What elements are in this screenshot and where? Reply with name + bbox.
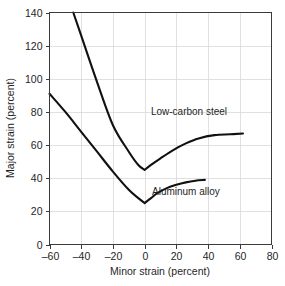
x-axis-title: Minor strain (percent) — [110, 265, 210, 277]
x-tick-label: –40 — [73, 250, 91, 262]
y-tick-label: 40 — [31, 172, 43, 184]
y-tick-label: 120 — [25, 40, 43, 52]
y-axis-title: Major strain (percent) — [4, 78, 16, 178]
y-tick-label: 100 — [25, 73, 43, 85]
y-tick-label: 0 — [37, 239, 43, 251]
x-tick-label: 0 — [143, 250, 149, 262]
series-label-2: Aluminum alloy — [152, 186, 220, 197]
figure-background — [0, 0, 285, 286]
y-tick-label: 80 — [31, 106, 43, 118]
x-tick-label: 20 — [171, 250, 183, 262]
x-tick-label: 40 — [203, 250, 215, 262]
x-tick-label: 60 — [235, 250, 247, 262]
y-tick-label: 60 — [31, 139, 43, 151]
series-label-1: Low-carbon steel — [151, 106, 227, 117]
x-tick-label: –60 — [42, 250, 60, 262]
y-tick-label: 140 — [25, 7, 43, 19]
chart-canvas: –60–40–20020406080020406080100120140 Low… — [0, 0, 285, 286]
x-tick-label: –20 — [105, 250, 123, 262]
forming-limit-diagram-figure: –60–40–20020406080020406080100120140 Low… — [0, 0, 285, 286]
y-tick-label: 20 — [31, 205, 43, 217]
x-tick-label: 80 — [267, 250, 279, 262]
